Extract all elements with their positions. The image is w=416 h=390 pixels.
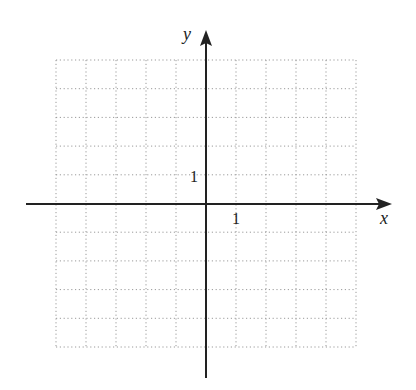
y-tick-label-1: 1 [190,168,198,185]
coordinate-plane: x y 1 1 [0,0,416,390]
x-axis-label: x [379,208,388,228]
x-tick-label-1: 1 [232,210,240,227]
y-axis-label: y [181,24,191,44]
